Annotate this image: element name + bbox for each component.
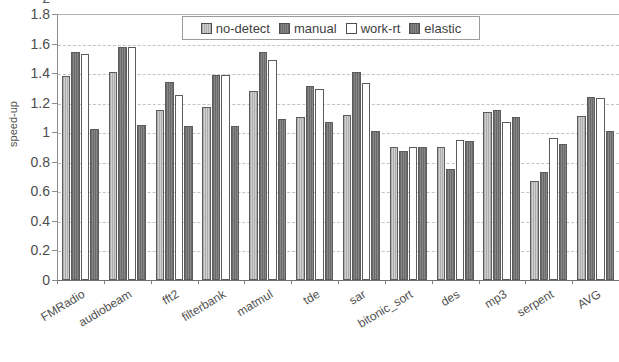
bar-no-detect bbox=[483, 112, 492, 280]
bar-work-rt bbox=[315, 89, 324, 280]
bar-manual bbox=[118, 47, 127, 280]
bar-group bbox=[198, 14, 245, 280]
bar-manual bbox=[212, 75, 221, 280]
legend-item: work-rt bbox=[346, 21, 401, 36]
bar-no-detect bbox=[109, 72, 118, 280]
legend-label: no-detect bbox=[216, 21, 270, 36]
x-tick-mark bbox=[479, 280, 480, 284]
legend-swatch-icon bbox=[201, 23, 212, 34]
bar-work-rt bbox=[409, 147, 418, 280]
bar-series-container bbox=[57, 14, 619, 280]
legend-item: no-detect bbox=[201, 21, 270, 36]
y-tick-label: 1.4 bbox=[31, 66, 50, 80]
legend-item: manual bbox=[279, 21, 337, 36]
bar-elastic bbox=[606, 131, 615, 280]
y-tick-label: 0.8 bbox=[31, 155, 50, 169]
x-tick-mark bbox=[338, 280, 339, 284]
bar-work-rt bbox=[268, 60, 277, 280]
legend-swatch-icon bbox=[346, 23, 357, 34]
bar-manual bbox=[306, 86, 315, 280]
bar-elastic bbox=[465, 141, 474, 280]
bar-group bbox=[151, 14, 198, 280]
x-tick-mark bbox=[151, 280, 152, 284]
x-tick-mark bbox=[525, 280, 526, 284]
x-tick-mark bbox=[104, 280, 105, 284]
bar-group bbox=[385, 14, 432, 280]
bar-no-detect bbox=[343, 115, 352, 281]
y-axis-label: speed-up bbox=[7, 89, 19, 159]
bar-work-rt bbox=[81, 54, 90, 280]
bar-group bbox=[525, 14, 572, 280]
bar-group bbox=[57, 14, 104, 280]
bar-manual bbox=[540, 172, 549, 280]
bar-group bbox=[338, 14, 385, 280]
bar-no-detect bbox=[296, 117, 305, 280]
bar-no-detect bbox=[249, 91, 258, 280]
bar-group bbox=[432, 14, 479, 280]
bar-elastic bbox=[137, 125, 146, 280]
bar-work-rt bbox=[596, 98, 605, 280]
bar-no-detect bbox=[437, 147, 446, 280]
bar-work-rt bbox=[502, 122, 511, 280]
y-tick-label: 1.6 bbox=[31, 37, 50, 51]
legend-swatch-icon bbox=[409, 23, 420, 34]
speedup-bar-chart: 2 speed-up 1.81.61.41.210.80.60.40.20 FM… bbox=[0, 0, 619, 362]
bar-work-rt bbox=[175, 95, 184, 280]
bar-manual bbox=[71, 52, 80, 280]
bar-work-rt bbox=[221, 75, 230, 280]
bar-manual bbox=[446, 169, 455, 280]
y-tick-label: 0.4 bbox=[31, 214, 50, 228]
x-tick-mark bbox=[57, 280, 58, 284]
legend-label: elastic bbox=[424, 21, 461, 36]
legend-label: manual bbox=[294, 21, 337, 36]
x-tick-mark bbox=[385, 280, 386, 284]
bar-no-detect bbox=[530, 181, 539, 280]
bar-work-rt bbox=[128, 47, 137, 280]
bar-elastic bbox=[90, 129, 99, 280]
bar-manual bbox=[399, 151, 408, 280]
bar-elastic bbox=[418, 147, 427, 280]
bar-group bbox=[244, 14, 291, 280]
legend-item: elastic bbox=[409, 21, 461, 36]
x-tick-mark bbox=[244, 280, 245, 284]
y-tick-label: 0.2 bbox=[31, 243, 50, 257]
bar-manual bbox=[352, 72, 361, 280]
y-tick-label-top-clipped: 2 bbox=[42, 0, 50, 5]
y-tick-label: 1.8 bbox=[31, 7, 50, 21]
bar-elastic bbox=[278, 119, 287, 280]
y-tick-label: 1.2 bbox=[31, 96, 50, 110]
x-tick-mark bbox=[291, 280, 292, 284]
x-tick-mark bbox=[572, 280, 573, 284]
legend-swatch-icon bbox=[279, 23, 290, 34]
bar-manual bbox=[493, 110, 502, 280]
bar-elastic bbox=[231, 126, 240, 280]
bar-elastic bbox=[512, 117, 521, 280]
bar-no-detect bbox=[390, 147, 399, 280]
bar-no-detect bbox=[202, 107, 211, 280]
bar-no-detect bbox=[577, 116, 586, 280]
bar-no-detect bbox=[62, 76, 71, 280]
bar-manual bbox=[587, 97, 596, 280]
bar-group bbox=[291, 14, 338, 280]
legend-label: work-rt bbox=[361, 21, 401, 36]
bar-group bbox=[104, 14, 151, 280]
bar-elastic bbox=[184, 126, 193, 280]
bar-elastic bbox=[559, 144, 568, 280]
bar-elastic bbox=[371, 131, 380, 280]
bar-manual bbox=[259, 52, 268, 280]
bar-work-rt bbox=[549, 138, 558, 280]
y-tick-label: 0.6 bbox=[31, 184, 50, 198]
bar-work-rt bbox=[456, 140, 465, 280]
y-tick-label: 1 bbox=[42, 125, 50, 139]
bar-manual bbox=[165, 82, 174, 280]
x-tick-mark bbox=[432, 280, 433, 284]
bar-group bbox=[479, 14, 526, 280]
bar-group bbox=[572, 14, 619, 280]
bar-elastic bbox=[325, 122, 334, 280]
chart-legend: no-detectmanualwork-rtelastic bbox=[182, 16, 480, 40]
x-tick-mark bbox=[198, 280, 199, 284]
bar-work-rt bbox=[362, 83, 371, 280]
bar-no-detect bbox=[156, 110, 165, 280]
x-axis: FMRadioaudiobeamfft2filterbankmatmultdes… bbox=[0, 280, 619, 362]
